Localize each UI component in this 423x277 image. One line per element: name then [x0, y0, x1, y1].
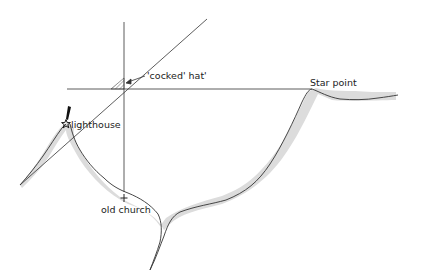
- old-church-label: old church: [101, 204, 151, 215]
- bearing-line-lighthouse: [20, 19, 207, 185]
- old-church-cross-icon: [121, 194, 128, 202]
- coastline-shading: [20, 88, 396, 230]
- cocked-hat-label: 'cocked' hat': [147, 70, 207, 81]
- star-point-label: Star point: [310, 77, 357, 88]
- lighthouse-beam-icon: [66, 106, 71, 120]
- lighthouse-label: lighthouse: [71, 119, 121, 130]
- coastline: [20, 89, 398, 270]
- cocked-hat-triangle: [111, 78, 124, 89]
- bearings-diagram: 'cocked' hat' Star point lighthouse old …: [0, 0, 423, 277]
